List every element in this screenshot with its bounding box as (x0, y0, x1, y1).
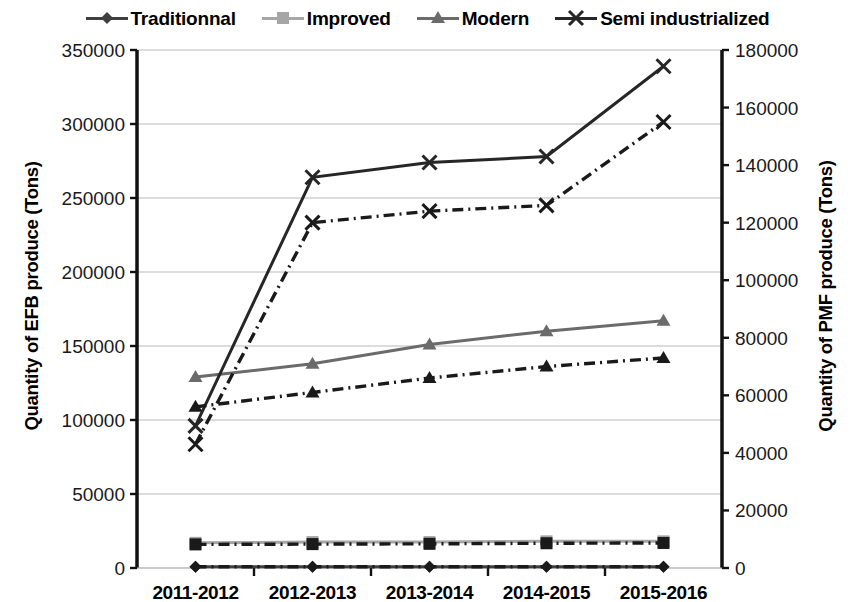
square-marker (424, 538, 436, 550)
left-axis-tick-label: 0 (114, 558, 125, 579)
x-axis-category-label: 2011-2012 (152, 582, 238, 602)
square-marker (658, 537, 670, 549)
right-axis-tick-label: 140000 (735, 155, 798, 176)
left-axis-tick-label: 250000 (62, 188, 125, 209)
left-axis-tick-label: 350000 (62, 40, 125, 61)
right-axis-tick-label: 40000 (735, 443, 788, 464)
diamond-marker (424, 561, 436, 573)
square-marker (307, 538, 319, 550)
right-axis-tick-label: 20000 (735, 500, 788, 521)
left-axis-tick-label: 50000 (72, 484, 125, 505)
line-chart-plot: 0500001000001500002000002500003000003500… (0, 0, 855, 602)
x-axis-category-label: 2012-2013 (269, 582, 356, 602)
x-marker (540, 198, 554, 212)
left-axis-tick-label: 100000 (62, 410, 125, 431)
diamond-marker (190, 561, 202, 573)
x-axis-category-label: 2013-2014 (386, 582, 474, 602)
x-axis-category-label: 2015-2016 (620, 582, 707, 602)
right-axis-tick-label: 120000 (735, 213, 798, 234)
right-axis-tick-label: 100000 (735, 270, 798, 291)
chart-page: TraditionnalImprovedModernSemi industria… (0, 0, 855, 602)
diamond-marker (307, 561, 319, 573)
left-axis-tick-label: 200000 (62, 262, 125, 283)
right-axis-tick-label: 0 (735, 558, 746, 579)
left-axis-tick-label: 150000 (62, 336, 125, 357)
x-marker (189, 437, 203, 451)
x-marker (189, 419, 203, 433)
right-axis-tick-label: 180000 (735, 40, 798, 61)
right-axis-tick-label: 60000 (735, 385, 788, 406)
right-axis-tick-label: 80000 (735, 328, 788, 349)
right-axis-tick-label: 160000 (735, 98, 798, 119)
diamond-marker (658, 561, 670, 573)
diamond-marker (541, 561, 553, 573)
square-marker (190, 538, 202, 550)
x-marker (657, 115, 671, 129)
x-axis-category-label: 2014-2015 (503, 582, 591, 602)
square-marker (541, 537, 553, 549)
x-marker (657, 59, 671, 73)
left-axis-tick-label: 300000 (62, 114, 125, 135)
series-line (196, 122, 664, 444)
